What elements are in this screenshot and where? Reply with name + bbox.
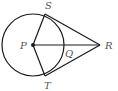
label-p: P	[19, 40, 27, 51]
tangent-sr	[45, 14, 100, 45]
geometry-diagram: P S T R Q	[0, 0, 118, 91]
label-q: Q	[65, 48, 73, 59]
label-t: T	[44, 80, 52, 91]
center-point-dot	[31, 43, 35, 47]
radius-ps	[33, 14, 45, 45]
label-s: S	[45, 0, 52, 11]
label-r: R	[104, 40, 113, 51]
radius-pt	[33, 45, 45, 76]
